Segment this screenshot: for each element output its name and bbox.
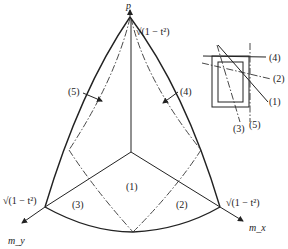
left-lower-dash (69, 150, 133, 232)
region-3-label: (3) (72, 199, 84, 211)
inset-label-1: (1) (269, 96, 281, 108)
yield-surface-diagram: p √(1 − t²) √(1 − t²) √(1 − t²) m_y m_x … (0, 0, 288, 249)
curve-4 (131, 18, 201, 150)
left-corner-label: √(1 − t²) (3, 195, 37, 207)
curve-5 (69, 18, 130, 150)
my-axis (22, 207, 45, 223)
region-1-label: (1) (126, 181, 138, 193)
left-edge (45, 17, 130, 207)
curve-5-label: (5) (68, 86, 80, 98)
bottom-edge (45, 207, 220, 232)
mx-axis-label: m_x (249, 222, 266, 233)
right-lower-dash (133, 150, 201, 232)
center-to-left (45, 152, 131, 207)
inset-label-3: (3) (233, 123, 245, 135)
inset-label-4: (4) (269, 52, 281, 64)
curve-4-label: (4) (180, 86, 192, 98)
inset-label-5: (5) (249, 119, 261, 131)
inset-label-2: (2) (273, 73, 285, 85)
mx-axis (220, 207, 243, 221)
top-corner-label: √(1 − t²) (136, 26, 170, 38)
p-axis-label: p (125, 0, 131, 11)
leader-4 (163, 92, 178, 103)
region-2-label: (2) (176, 199, 188, 211)
inset-cross-section: (4) (2) (1) (3) (5) (202, 43, 285, 135)
right-edge (130, 17, 220, 207)
right-corner-label: √(1 − t²) (226, 197, 260, 209)
my-axis-label: m_y (8, 235, 25, 246)
